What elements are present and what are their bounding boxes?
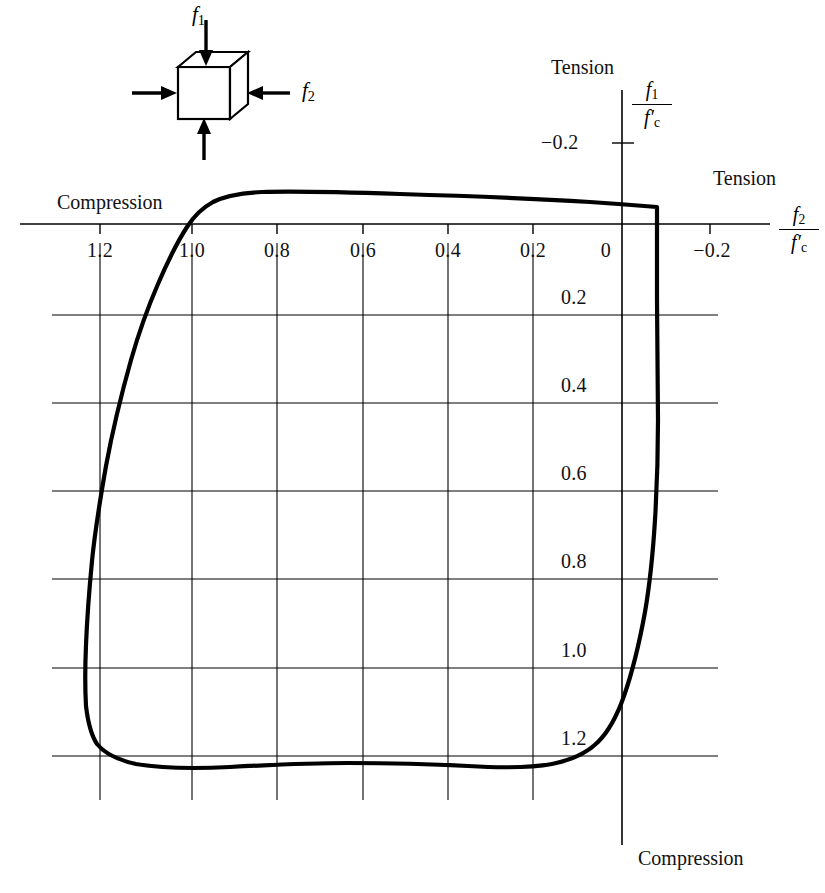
y-axis-compression-label: Compression: [638, 848, 744, 868]
x-tick-label-0.6: 0.6: [350, 240, 376, 260]
y-axis-numerator: f1: [632, 78, 672, 103]
biaxial-strength-envelope-figure: f1 f2: [0, 0, 825, 893]
x-tick-label-0: 0: [601, 240, 611, 260]
y-tick-label-1.0: 1.0: [561, 640, 587, 660]
x-tick-label-0.2: 0.2: [520, 240, 546, 260]
y-axis-fraction-bar: [632, 104, 672, 105]
x-axis-fraction-bar: [779, 229, 819, 230]
y-tick-label-0.8: 0.8: [561, 551, 587, 571]
y-tick-label-0.6: 0.6: [561, 463, 587, 483]
y-axis-fraction-label: f1 f′c: [632, 78, 672, 130]
y-tick-label-0.2: 0.2: [561, 287, 587, 307]
vertical-gridlines: [100, 243, 533, 800]
y-tick-label-0.4: 0.4: [561, 375, 587, 395]
x-axis-numerator: f2: [779, 203, 819, 228]
plot-svg: [0, 0, 825, 893]
x-axis-tension-label: Tension: [713, 168, 776, 188]
y-axis-tension-label: Tension: [551, 57, 614, 77]
x-tick-label-1.2: 1.2: [87, 240, 113, 260]
y-tick-label-1.2: 1.2: [561, 728, 587, 748]
x-tick-label-0.8: 0.8: [264, 240, 290, 260]
x-tick-label-neg0.2: −0.2: [693, 240, 730, 260]
y-axis-denominator: f′c: [632, 106, 672, 131]
x-axis-fraction-label: f2 f′c: [779, 203, 819, 255]
x-axis-compression-label: Compression: [57, 192, 163, 212]
x-axis-denominator: f′c: [779, 231, 819, 256]
x-tick-label-1.0: 1.0: [179, 240, 205, 260]
horizontal-gridlines: [52, 315, 718, 756]
x-tick-label-0.4: 0.4: [435, 240, 461, 260]
y-tick-label-neg0.2: −0.2: [541, 132, 578, 152]
x-axis-ticks: [100, 224, 710, 234]
